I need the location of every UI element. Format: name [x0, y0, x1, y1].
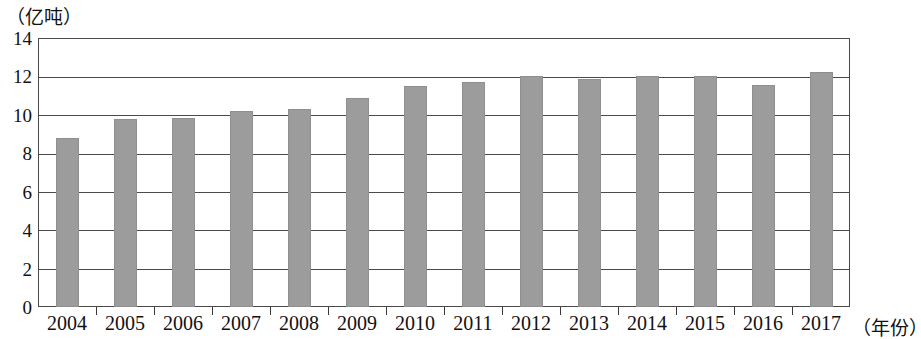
- gridline: [39, 230, 849, 231]
- gridline: [39, 192, 849, 193]
- x-axis-tick-label: 2004: [38, 313, 96, 333]
- y-axis-tick-labels: 02468101214: [0, 38, 32, 307]
- bar-chart: （亿吨） 02468101214 20042005200620072008200…: [0, 0, 921, 339]
- x-axis-tick-label: 2016: [734, 313, 792, 333]
- y-axis-tick-label: 6: [2, 183, 32, 202]
- x-axis-tick-label: 2013: [560, 313, 618, 333]
- plot-area: [38, 38, 850, 307]
- gridline: [39, 269, 849, 270]
- x-axis-tick-label: 2007: [212, 313, 270, 333]
- y-axis-tick-label: 14: [2, 29, 32, 48]
- gridline: [39, 154, 849, 155]
- x-axis-tick-label: 2010: [386, 313, 444, 333]
- y-axis-tick-label: 10: [2, 106, 32, 125]
- x-axis-tick-label: 2006: [154, 313, 212, 333]
- y-axis-tick-label: 2: [2, 260, 32, 279]
- x-axis-tick-label: 2014: [618, 313, 676, 333]
- gridline: [39, 77, 849, 78]
- x-axis-unit-label: （年份）: [852, 313, 921, 339]
- x-axis-tick-label: 2017: [792, 313, 850, 333]
- x-axis-tick-label: 2009: [328, 313, 386, 333]
- x-axis-tick-label: 2005: [96, 313, 154, 333]
- y-axis-tick-label: 4: [2, 221, 32, 240]
- y-axis-tick-label: 8: [2, 144, 32, 163]
- y-axis-tick-label: 0: [2, 298, 32, 317]
- y-axis-unit-label: （亿吨）: [6, 2, 82, 29]
- gridline: [39, 115, 849, 116]
- x-axis-tick-label: 2015: [676, 313, 734, 333]
- x-axis-tick-label: 2008: [270, 313, 328, 333]
- x-axis-tick-label: 2011: [444, 313, 502, 333]
- y-axis-tick-label: 12: [2, 67, 32, 86]
- x-axis-tick-label: 2012: [502, 313, 560, 333]
